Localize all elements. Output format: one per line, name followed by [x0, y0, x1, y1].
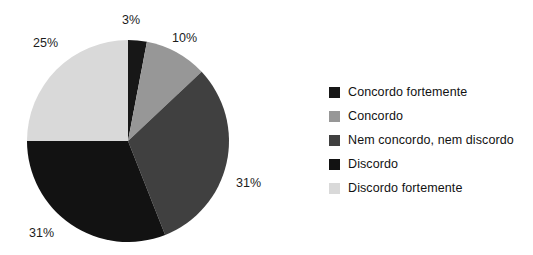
chart-legend: Concordo fortemente Concordo Nem concord… [329, 80, 529, 200]
legend-item-label: Discordo fortemente [348, 181, 462, 195]
pie-label-31-percent-bottom: 31% [29, 226, 54, 240]
pie-label-25-percent: 25% [33, 36, 58, 50]
pie-slices [27, 40, 229, 242]
legend-swatch-icon [329, 111, 340, 122]
legend-item-concordo[interactable]: Concordo [329, 104, 529, 128]
legend-swatch-icon [329, 135, 340, 146]
legend-item-label: Discordo [348, 157, 398, 171]
legend-item-concordo-fortemente[interactable]: Concordo fortemente [329, 80, 529, 104]
legend-swatch-icon [329, 183, 340, 194]
pie-plot-area: 3% 10% 31% 31% 25% [0, 0, 300, 255]
legend-item-label: Nem concordo, nem discordo [348, 133, 514, 147]
legend-swatch-icon [329, 87, 340, 98]
pie-slice-discordo-fortemente[interactable] [27, 40, 128, 141]
legend-item-discordo[interactable]: Discordo [329, 152, 529, 176]
pie-label-31-percent-right: 31% [236, 176, 261, 190]
pie-chart: 3% 10% 31% 31% 25% Concordo fortemente C… [0, 0, 533, 255]
pie-label-10-percent: 10% [172, 31, 197, 45]
pie-label-3-percent: 3% [122, 13, 140, 27]
legend-item-label: Concordo [348, 109, 403, 123]
legend-item-nem-concordo-nem-discordo[interactable]: Nem concordo, nem discordo [329, 128, 529, 152]
legend-swatch-icon [329, 159, 340, 170]
legend-item-discordo-fortemente[interactable]: Discordo fortemente [329, 176, 529, 200]
legend-item-label: Concordo fortemente [348, 85, 467, 99]
